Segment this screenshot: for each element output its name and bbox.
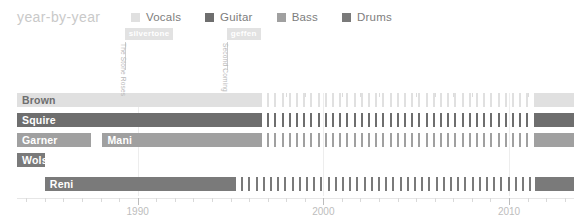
bottom-tick-1994 [212,198,213,202]
bottom-tick-1999 [305,198,306,202]
legend-label: Drums [357,11,392,23]
legend-item-guitar[interactable]: Guitar [205,11,253,23]
member-row-reni[interactable]: Reni [17,177,574,191]
segment-active [535,133,574,147]
legend-swatch-bass-icon [277,13,286,22]
bottom-tick-1990 [138,198,139,205]
segment-active [17,153,45,167]
legend-item-vocals[interactable]: Vocals [131,11,181,23]
segment-active [535,113,574,127]
segment-intermittent [260,93,535,107]
legend-swatch-vocals-icon [131,13,140,22]
bottom-axis [17,198,574,206]
bottom-tick-2011 [528,198,529,202]
segment-intermittent [260,133,535,147]
legend-item-drums[interactable]: Drums [342,11,392,23]
bottom-tick-1989 [119,198,120,202]
bottom-tick-2008 [472,198,473,202]
x-axis-label-1990: 1990 [127,206,149,217]
legend-label: Vocals [146,11,181,23]
bottom-tick-2010 [509,198,510,205]
segment-active [17,93,260,107]
legend-swatch-guitar-icon [205,13,214,22]
bottom-tick-2000 [323,198,324,205]
bottom-tick-1993 [193,198,194,202]
bottom-tick-2007 [453,198,454,202]
member-row-brown[interactable]: Brown [17,93,574,107]
bottom-tick-1996 [249,198,250,202]
bottom-tick-1995 [231,198,232,202]
bottom-tick-2013 [565,198,566,202]
annotation-release-silvertone: The Stone Roses [120,43,127,96]
plot-area: BrownSquireGarnerManiWolstencroftReni [17,93,574,196]
segment-active [17,113,260,127]
segment-active [102,133,260,147]
bottom-tick-2009 [490,198,491,202]
segment-active [535,93,574,107]
legend-label: Bass [292,11,318,23]
bottom-tick-2003 [379,198,380,202]
annotation-release-geffen: Second Coming [222,43,229,92]
bottom-tick-2004 [398,198,399,202]
bottom-tick-2006 [435,198,436,202]
segment-active [535,177,574,191]
bottom-tick-1997 [268,198,269,202]
bottom-tick-1998 [286,198,287,202]
legend-label: Guitar [220,11,253,23]
bottom-tick-2001 [342,198,343,202]
segment-active [45,177,234,191]
x-axis-label-2000: 2000 [312,206,334,217]
bottom-tick-1988 [101,198,102,202]
bottom-tick-2002 [360,198,361,202]
member-row-squire[interactable]: Squire [17,113,574,127]
bottom-tick-1987 [82,198,83,202]
bottom-tick-1985 [45,198,46,202]
bottom-tick-2005 [416,198,417,202]
segment-intermittent [234,177,535,191]
member-row-garner[interactable]: GarnerMani [17,133,574,147]
page-title: year-by-year [17,9,100,25]
bottom-tick-1991 [156,198,157,202]
annotation-label-geffen: geffen [227,28,261,40]
legend-swatch-drums-icon [342,13,351,22]
year-by-year-chart: year-by-year VocalsGuitarBassDrums Brown… [0,0,588,221]
segment-intermittent [260,113,535,127]
segment-active [17,133,91,147]
member-row-wolstencroft[interactable]: Wolstencroft [17,153,574,167]
bottom-tick-2012 [546,198,547,202]
bottom-tick-1984 [26,198,27,202]
legend-item-bass[interactable]: Bass [277,11,318,23]
bottom-tick-1986 [63,198,64,202]
annotation-label-silvertone: silvertone [125,28,174,40]
legend: VocalsGuitarBassDrums [131,11,416,23]
bottom-tick-1992 [175,198,176,202]
x-axis-label-2010: 2010 [498,206,520,217]
